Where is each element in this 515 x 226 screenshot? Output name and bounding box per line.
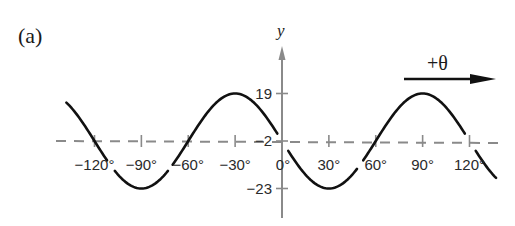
- curve-segment: [363, 94, 465, 161]
- curve-segment: [173, 94, 278, 165]
- curve-segment: [66, 103, 107, 161]
- x-tick-label: −90°: [126, 156, 157, 173]
- x-tick-label: −30°: [219, 156, 250, 173]
- y-axis-title: y: [275, 21, 285, 40]
- x-tick-label: −60°: [173, 156, 204, 173]
- direction-label: +θ: [427, 52, 448, 74]
- panel-label: (a): [18, 23, 42, 48]
- x-tick-label: 0°: [276, 156, 290, 173]
- x-tick-label: −120°: [75, 156, 115, 173]
- x-tick-label: 30°: [318, 156, 341, 173]
- x-tick-label: 60°: [364, 156, 387, 173]
- x-tick-label: 90°: [411, 156, 434, 173]
- y-tick-label: −2: [255, 132, 272, 149]
- chart-figure: (a) y 19−2−23 −120°−90°−60°−30°0°30°60°9…: [0, 0, 515, 226]
- y-axis-arrow-icon: [279, 46, 286, 60]
- y-tick-label: 19: [255, 85, 272, 102]
- x-axis-tick-labels: −120°−90°−60°−30°0°30°60°90°120°: [75, 156, 485, 173]
- y-tick-label: −23: [247, 180, 272, 197]
- right-arrow-icon: [470, 74, 496, 84]
- x-tick-label: 120°: [454, 156, 485, 173]
- direction-annotation: +θ: [404, 52, 496, 84]
- curve-segment: [115, 171, 168, 189]
